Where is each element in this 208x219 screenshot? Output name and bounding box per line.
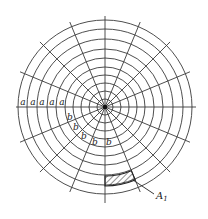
label-b-4: b — [92, 137, 98, 147]
label-a-4: a — [49, 97, 54, 107]
label-a-2: a — [30, 97, 35, 107]
center-hub — [103, 105, 107, 109]
label-b-2: b — [73, 122, 79, 132]
callout-leader-line — [133, 180, 154, 194]
polar-grid-diagram: aaaaa bbbbb A1 — [0, 0, 208, 219]
label-a-3: a — [39, 97, 44, 107]
label-a-1: a — [20, 97, 25, 107]
callout-label-A1: A1 — [155, 190, 168, 203]
label-b-5: b — [106, 137, 112, 147]
label-b-3: b — [81, 131, 87, 141]
label-b-1: b — [67, 112, 73, 122]
label-a-5: a — [59, 97, 64, 107]
